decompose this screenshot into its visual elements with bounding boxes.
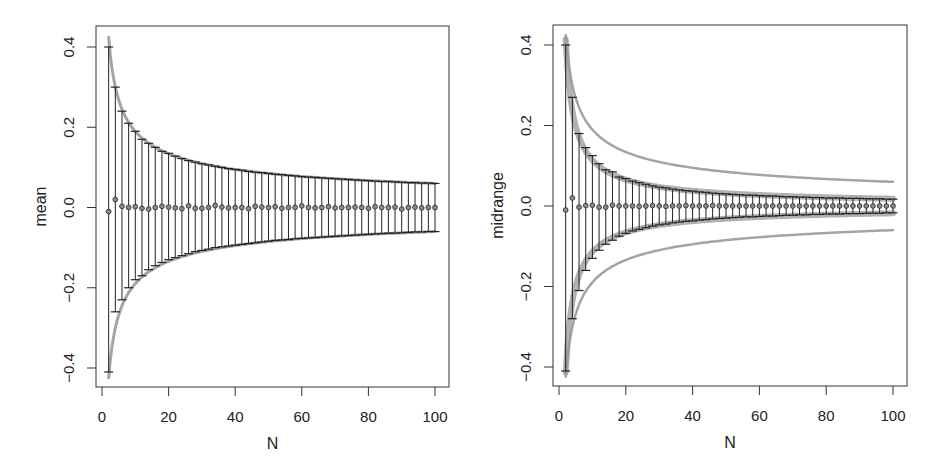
data-point (570, 196, 575, 201)
data-point (206, 205, 211, 210)
data-point (126, 205, 131, 210)
x-axis-label: N (267, 435, 279, 452)
data-point (379, 205, 384, 210)
y-tick-label: 0.0 (517, 196, 534, 217)
data-point (160, 204, 165, 209)
upper-envelope-curve (566, 35, 893, 182)
x-tick-label: 100 (880, 407, 905, 424)
y-tick-label: 0.0 (60, 197, 77, 218)
x-tick-label: 20 (160, 408, 177, 425)
midrange-plot-panel: 020406080100−0.4−0.20.00.20.4Nmidrange (489, 25, 907, 451)
data-point (266, 205, 271, 210)
data-point (279, 206, 284, 211)
data-point (730, 204, 735, 209)
data-point (830, 204, 835, 209)
upper-envelope-curve (109, 37, 435, 183)
data-point (637, 204, 642, 209)
x-axis-label: N (724, 434, 736, 451)
data-point (246, 206, 251, 211)
data-point (219, 205, 224, 210)
data-point (650, 203, 655, 208)
figure: 020406080100−0.4−0.20.00.20.4Nmean 02040… (0, 0, 949, 476)
y-tick-label: −0.2 (60, 273, 77, 303)
data-point (737, 204, 742, 209)
data-point (406, 205, 411, 210)
data-point (657, 204, 662, 209)
data-point (166, 205, 171, 210)
y-tick-label: 0.2 (517, 115, 534, 136)
data-point (810, 204, 815, 209)
data-point (891, 204, 896, 209)
y-tick-label: 0.4 (60, 37, 77, 58)
data-point (133, 204, 138, 209)
y-axis-label: midrange (489, 172, 506, 239)
data-point (764, 204, 769, 209)
data-point (146, 207, 151, 212)
data-point (333, 206, 338, 211)
data-point (286, 205, 291, 210)
data-point (844, 204, 849, 209)
data-point (419, 206, 424, 211)
data-point (113, 197, 118, 202)
data-point (804, 204, 809, 209)
data-point (837, 204, 842, 209)
data-point (186, 203, 191, 208)
data-point (851, 204, 856, 209)
x-tick-label: 100 (422, 408, 447, 425)
data-point (590, 203, 595, 208)
x-tick-label: 60 (293, 408, 310, 425)
y-tick-label: 0.2 (60, 117, 77, 138)
data-point (817, 204, 822, 209)
data-point (180, 206, 185, 211)
data-point (690, 204, 695, 209)
data-point (663, 204, 668, 209)
data-point (213, 203, 218, 208)
data-point (871, 204, 876, 209)
data-point (710, 203, 715, 208)
data-point (413, 205, 418, 210)
data-point (253, 204, 258, 209)
data-point (610, 203, 615, 208)
data-point (750, 204, 755, 209)
data-point (326, 204, 331, 209)
data-point (393, 205, 398, 210)
x-tick-label: 40 (684, 407, 701, 424)
lower-envelope-curve (109, 232, 435, 378)
data-point (777, 204, 782, 209)
data-point (306, 205, 311, 210)
data-point (884, 204, 889, 209)
data-point (577, 205, 582, 210)
data-point (200, 206, 205, 211)
data-point (299, 203, 304, 208)
data-point (353, 205, 358, 210)
data-point (313, 206, 318, 211)
x-tick-label: 0 (98, 408, 106, 425)
x-tick-label: 20 (617, 407, 634, 424)
data-point (153, 205, 158, 210)
data-point (597, 205, 602, 210)
data-point (717, 204, 722, 209)
data-point (339, 205, 344, 210)
data-point (603, 205, 608, 210)
data-point (790, 204, 795, 209)
lower-envelope-curve (566, 230, 893, 377)
data-point (643, 204, 648, 209)
y-tick-label: −0.2 (517, 272, 534, 302)
data-point (106, 209, 111, 214)
y-tick-label: −0.4 (517, 352, 534, 382)
data-point (724, 204, 729, 209)
chart-canvas: 020406080100−0.4−0.20.00.20.4Nmean 02040… (0, 0, 949, 476)
data-point (670, 204, 675, 209)
data-point (273, 204, 278, 209)
data-point (293, 205, 298, 210)
data-point (193, 206, 198, 211)
data-point (877, 204, 882, 209)
x-tick-label: 60 (751, 407, 768, 424)
data-point (757, 204, 762, 209)
y-tick-label: 0.4 (517, 35, 534, 56)
data-point (583, 203, 588, 208)
x-tick-label: 80 (818, 407, 835, 424)
data-point (744, 204, 749, 209)
mean-plot-panel: 020406080100−0.4−0.20.00.20.4Nmean (32, 26, 449, 452)
data-point (563, 208, 568, 213)
